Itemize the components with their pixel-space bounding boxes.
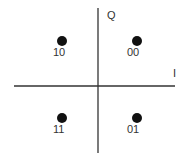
- point-label: 10: [53, 46, 65, 58]
- i-axis-label: I: [173, 67, 176, 79]
- constellation-dot: [57, 36, 67, 46]
- point-01: 01: [127, 113, 142, 135]
- constellation-dot: [132, 113, 142, 123]
- constellation-diagram: Q I 10 00 11 01: [0, 0, 184, 160]
- point-00: 00: [127, 36, 142, 58]
- point-11: 11: [53, 113, 67, 135]
- point-label: 11: [53, 123, 64, 135]
- point-label: 01: [127, 123, 139, 135]
- point-label: 00: [127, 46, 139, 58]
- constellation-dot: [57, 113, 67, 123]
- constellation-dot: [132, 36, 142, 46]
- q-axis-label: Q: [107, 9, 116, 21]
- point-10: 10: [53, 36, 67, 58]
